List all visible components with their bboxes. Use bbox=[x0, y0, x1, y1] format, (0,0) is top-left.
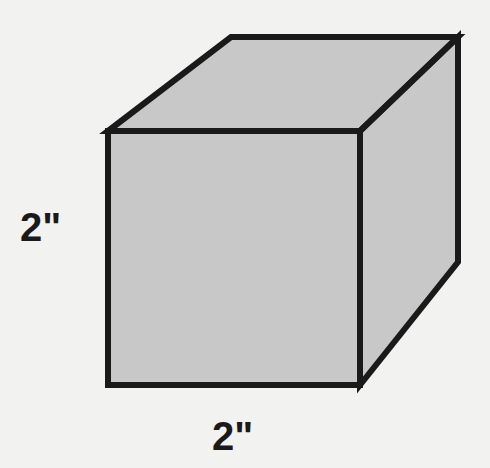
cube-front-face bbox=[108, 131, 360, 385]
width-dimension-label: 2" bbox=[212, 416, 253, 456]
cube-illustration bbox=[0, 0, 490, 468]
cube-figure: 2" 2" bbox=[0, 0, 490, 468]
height-dimension-label: 2" bbox=[20, 207, 61, 247]
